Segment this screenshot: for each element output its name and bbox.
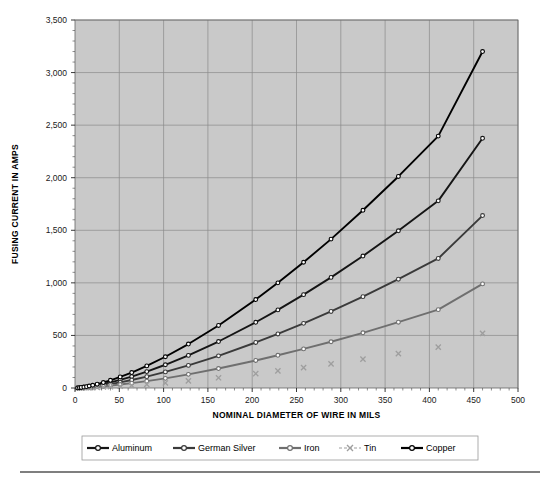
series-marker	[101, 381, 105, 385]
series-marker	[276, 281, 280, 285]
series-marker	[217, 354, 221, 358]
series-marker	[329, 340, 333, 344]
series-marker	[217, 340, 221, 344]
series-marker	[361, 208, 365, 212]
y-tick-label: 2,000	[46, 173, 68, 183]
x-tick-label: 300	[334, 395, 348, 405]
series-marker	[254, 320, 258, 324]
y-tick-label: 1,000	[46, 278, 68, 288]
series-marker	[163, 376, 167, 380]
series-marker	[163, 363, 167, 367]
series-marker	[361, 254, 365, 258]
y-axis-title: FUSING CURRENT IN AMPS	[10, 144, 20, 264]
legend-marker	[182, 446, 187, 451]
y-tick-label: 3,500	[46, 15, 68, 25]
series-marker	[396, 175, 400, 179]
series-marker	[481, 282, 485, 286]
x-tick-label: 350	[378, 395, 392, 405]
legend-label: German Silver	[198, 443, 256, 453]
series-marker	[302, 293, 306, 297]
series-marker	[396, 277, 400, 281]
series-marker	[254, 359, 258, 363]
series-marker	[302, 347, 306, 351]
legend-marker	[410, 446, 415, 451]
series-marker	[329, 310, 333, 314]
series-marker	[187, 354, 191, 358]
series-marker	[276, 332, 280, 336]
x-tick-label: 250	[289, 395, 303, 405]
series-marker	[118, 375, 122, 379]
x-tick-label: 400	[422, 395, 436, 405]
series-marker	[254, 298, 258, 302]
series-marker	[396, 229, 400, 233]
series-marker	[163, 355, 167, 359]
series-marker	[187, 372, 191, 376]
series-marker	[130, 371, 134, 375]
y-tick-label: 0	[62, 383, 67, 393]
series-marker	[481, 136, 485, 140]
series-marker	[302, 260, 306, 264]
series-marker	[187, 342, 191, 346]
legend-marker	[288, 446, 293, 451]
series-marker	[145, 370, 149, 374]
y-tick-label: 500	[53, 330, 67, 340]
x-tick-label: 450	[467, 395, 481, 405]
x-tick-label: 500	[511, 395, 525, 405]
legend-label: Aluminum	[112, 443, 152, 453]
series-marker	[187, 363, 191, 367]
legend-marker	[96, 446, 101, 451]
fusing-current-chart: 05010015020025030035040045050005001,0001…	[0, 0, 560, 480]
x-tick-label: 150	[201, 395, 215, 405]
series-marker	[254, 341, 258, 345]
y-tick-label: 1,500	[46, 225, 68, 235]
series-marker	[276, 353, 280, 357]
series-marker	[217, 367, 221, 371]
series-marker	[436, 257, 440, 261]
series-marker	[436, 308, 440, 312]
x-tick-label: 100	[157, 395, 171, 405]
x-tick-label: 200	[245, 395, 259, 405]
series-marker	[361, 295, 365, 299]
series-marker	[91, 383, 95, 387]
y-tick-label: 3,000	[46, 68, 68, 78]
series-marker	[95, 382, 99, 386]
series-marker	[329, 237, 333, 241]
x-tick-label: 0	[73, 395, 78, 405]
series-marker	[145, 364, 149, 368]
series-marker	[396, 320, 400, 324]
series-marker	[481, 50, 485, 54]
legend-label: Copper	[426, 443, 456, 453]
legend-label: Tin	[364, 443, 376, 453]
series-marker	[109, 378, 113, 382]
series-marker	[302, 321, 306, 325]
series-marker	[145, 375, 149, 379]
y-tick-label: 2,500	[46, 120, 68, 130]
series-marker	[163, 370, 167, 374]
series-marker	[436, 199, 440, 203]
series-marker	[436, 134, 440, 138]
series-marker	[361, 331, 365, 335]
series-marker	[217, 324, 221, 328]
series-marker	[276, 308, 280, 312]
chart-canvas: 05010015020025030035040045050005001,0001…	[0, 0, 560, 480]
series-marker	[329, 275, 333, 279]
legend-label: Iron	[304, 443, 320, 453]
x-tick-label: 50	[115, 395, 125, 405]
series-marker	[481, 214, 485, 218]
x-axis-title: NOMINAL DIAMETER OF WIRE IN MILS	[212, 410, 380, 420]
